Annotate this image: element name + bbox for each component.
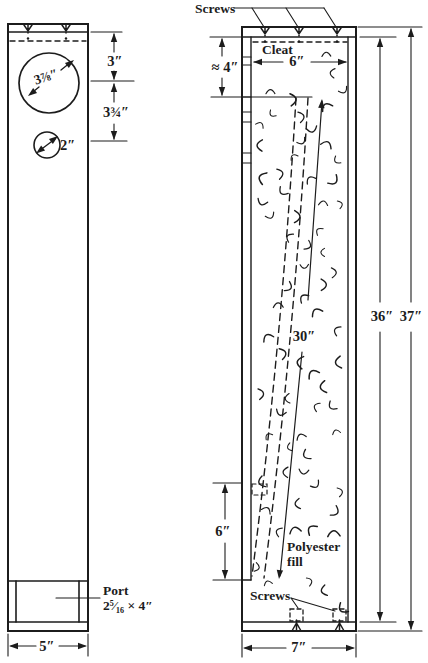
port-label: Port [103, 584, 128, 598]
lower-6in-dimension-label: 6″ [215, 524, 230, 539]
cleat-label: Cleat [262, 43, 293, 57]
inner-width-dimension-label: 6″ [289, 54, 304, 69]
tweeter-diameter-label: 2″ [60, 138, 75, 153]
port-size-label: 2⁵⁄₁₆ × 4″ [103, 599, 153, 613]
diagram-page: Screws Cleat ≈ 4″ 6″ 30″ 6″ Polyester fi… [0, 0, 428, 663]
screws-bottom-label: Screws [250, 589, 290, 603]
woofer-offset-dimension-label: 3″ [107, 54, 122, 69]
top-clearance-dimension-label: ≈ 4″ [212, 60, 239, 75]
screws-bottom-leaders-and-boxes [290, 598, 346, 621]
section-wall-cleat-ticks [242, 57, 251, 163]
section-width-dimension-label: 7″ [291, 640, 306, 655]
polyester-fill-label-line1: Polyester [287, 540, 340, 554]
section-dimension-37in [358, 27, 422, 631]
section-top-screw-icons [261, 27, 341, 43]
section-dimension-36in [360, 37, 396, 622]
screws-top-leader-lines [234, 8, 336, 27]
tweeter-cutout [34, 132, 60, 158]
screws-top-label: Screws [195, 2, 235, 16]
driver-spacing-dimension-label: 3¾″ [103, 105, 129, 120]
tube-length-dimension-label: 30″ [293, 329, 316, 344]
diagram-canvas [0, 0, 428, 663]
front-width-dimension-label: 5″ [39, 639, 54, 654]
outer-height-dimension-label: 37″ [400, 309, 423, 324]
inner-height-dimension-label: 36″ [371, 309, 394, 324]
front-port-cutout [8, 581, 100, 622]
polyester-fill-label-line2: fill [287, 555, 303, 569]
front-view-outline [8, 24, 88, 631]
